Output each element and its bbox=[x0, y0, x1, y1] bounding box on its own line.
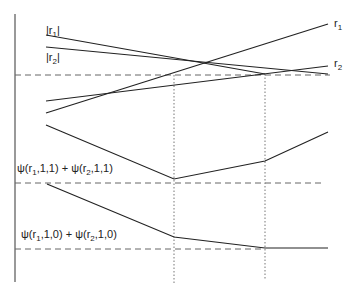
line-r2 bbox=[46, 66, 328, 101]
label-abs-r2: |r2| bbox=[46, 51, 60, 66]
label-r1: r1 bbox=[334, 17, 343, 32]
label-psi-sum-1-0: ψ(r1,1,0) + ψ(r2,1,0) bbox=[21, 228, 117, 243]
label-psi-sum-1-1: ψ(r1,1,1) + ψ(r2,1,1) bbox=[17, 162, 113, 177]
label-r2: r2 bbox=[334, 57, 343, 72]
diagram-canvas: |r1| |r2| r1 r2 ψ(r1,1,1) + ψ(r2,1,1) ψ(… bbox=[0, 0, 352, 290]
line-r1 bbox=[46, 24, 328, 113]
line-abs-r2 bbox=[46, 47, 328, 74]
